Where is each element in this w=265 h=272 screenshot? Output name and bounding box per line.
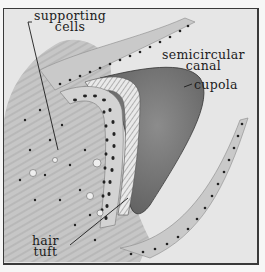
- crista-illustration: [0, 0, 265, 272]
- label-cupola: cupola: [194, 79, 238, 90]
- label-semicircular-canal: semicircular canal: [162, 49, 245, 71]
- label-hair-tuft-line2: tuft: [32, 246, 59, 257]
- label-cupola-line1: cupola: [194, 79, 238, 90]
- label-supporting-cells: supporting cells: [34, 10, 106, 32]
- label-hair-tuft: hair tuft: [32, 235, 59, 257]
